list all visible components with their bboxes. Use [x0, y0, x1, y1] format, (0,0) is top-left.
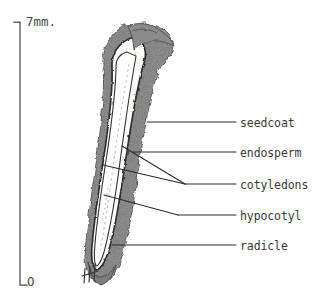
scale-bar	[14, 22, 27, 285]
scale-bar-bottom-label: O	[27, 274, 35, 289]
label-seedcoat: seedcoat	[240, 116, 295, 130]
label-radicle: radicle	[240, 239, 288, 253]
label-radicle-text: radicle	[240, 239, 288, 253]
label-cotyledons: cotyledons	[240, 178, 308, 192]
label-cotyledons-text: cotyledons	[240, 178, 308, 192]
label-hypocotyl: hypocotyl	[240, 209, 301, 223]
label-endosperm: endosperm	[240, 146, 301, 160]
scale-bar-top-label: 7mm.	[26, 14, 56, 29]
seed-body	[78, 18, 186, 292]
label-seedcoat-text: seedcoat	[240, 116, 295, 130]
label-hypocotyl-text: hypocotyl	[240, 209, 301, 223]
label-endosperm-text: endosperm	[240, 146, 301, 160]
